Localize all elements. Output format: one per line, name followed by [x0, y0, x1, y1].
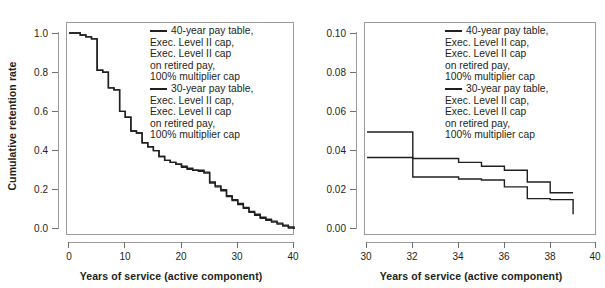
y-tick-label: 0.04 — [308, 145, 346, 156]
legend-entry-label: 40-year pay table, Exec. Level II cap, E… — [150, 25, 253, 82]
y-tick-mark — [350, 189, 356, 190]
y-tick-label: 0.10 — [308, 28, 346, 39]
y-tick-label: 0.02 — [308, 184, 346, 195]
x-tick-mark — [293, 242, 294, 248]
x-tick-mark — [458, 242, 459, 248]
y-tick-mark — [350, 33, 356, 34]
x-tick-label: 36 — [489, 251, 519, 262]
legend-entry-label: 40-year pay table, Exec. Level II cap, E… — [445, 25, 548, 82]
x-tick-mark — [124, 242, 125, 248]
y-tick-mark — [350, 228, 356, 229]
x-tick-label: 0 — [54, 251, 84, 262]
y-tick-mark — [350, 150, 356, 151]
legend-entry: 30-year pay table, Exec. Level II cap, E… — [150, 83, 296, 141]
x-axis-label-left: Years of service (active component) — [46, 270, 296, 282]
y-tick-label: 0.00 — [308, 223, 346, 234]
x-axis-spine-right — [366, 242, 596, 243]
y-tick-mark — [52, 72, 58, 73]
y-tick-label: 0.0 — [18, 223, 48, 234]
x-tick-label: 30 — [351, 251, 381, 262]
legend-left: 40-year pay table, Exec. Level II cap, E… — [150, 25, 296, 141]
y-tick-mark — [52, 228, 58, 229]
x-tick-label: 32 — [397, 251, 427, 262]
legend-entry: 30-year pay table, Exec. Level II cap, E… — [445, 83, 595, 141]
series-group-right — [367, 132, 573, 214]
y-axis-spine-right — [356, 32, 357, 229]
chart-panel-right: 0.00 0.02 0.04 0.06 0.08 0.10 30 32 34 3… — [303, 8, 605, 288]
series-path — [367, 132, 573, 214]
y-tick-mark — [52, 111, 58, 112]
legend-entry-label: 30-year pay table, Exec. Level II cap, E… — [445, 83, 548, 140]
chart-panel-left: Cumulative retention rate 0.0 0.2 0.4 0.… — [0, 8, 302, 288]
x-tick-mark — [550, 242, 551, 248]
x-tick-mark — [68, 242, 69, 248]
x-tick-mark — [412, 242, 413, 248]
legend-line-swatch — [445, 30, 462, 32]
legend-line-swatch — [445, 88, 462, 90]
x-tick-mark — [595, 242, 596, 248]
x-tick-label: 38 — [535, 251, 565, 262]
y-tick-mark — [350, 72, 356, 73]
y-tick-label: 0.4 — [18, 145, 48, 156]
figure-root: Cumulative retention rate 0.0 0.2 0.4 0.… — [0, 0, 605, 288]
y-tick-label: 1.0 — [18, 28, 48, 39]
y-tick-label: 0.06 — [308, 106, 346, 117]
y-tick-mark — [52, 189, 58, 190]
x-tick-label: 30 — [222, 251, 252, 262]
y-tick-mark — [52, 150, 58, 151]
y-tick-label: 0.08 — [308, 67, 346, 78]
legend-line-swatch — [150, 88, 167, 90]
legend-line-swatch — [150, 30, 167, 32]
x-tick-label: 40 — [580, 251, 605, 262]
y-tick-mark — [350, 111, 356, 112]
series-path — [367, 157, 573, 192]
x-tick-mark — [237, 242, 238, 248]
y-tick-label: 0.8 — [18, 67, 48, 78]
y-tick-mark — [52, 33, 58, 34]
x-tick-label: 20 — [166, 251, 196, 262]
x-tick-mark — [181, 242, 182, 248]
y-tick-label: 0.6 — [18, 106, 48, 117]
legend-entry-label: 30-year pay table, Exec. Level II cap, E… — [150, 83, 253, 140]
x-tick-mark — [504, 242, 505, 248]
x-axis-label-right: Years of service (active component) — [346, 270, 596, 282]
y-tick-label: 0.2 — [18, 184, 48, 195]
clipped-caption-strip — [0, 0, 605, 7]
y-axis-spine-left — [58, 32, 59, 229]
legend-entry: 40-year pay table, Exec. Level II cap, E… — [445, 25, 595, 83]
y-axis-label-left: Cumulative retention rate — [6, 56, 18, 196]
legend-right: 40-year pay table, Exec. Level II cap, E… — [445, 25, 595, 141]
legend-entry: 40-year pay table, Exec. Level II cap, E… — [150, 25, 296, 83]
x-tick-label: 10 — [110, 251, 140, 262]
x-tick-mark — [366, 242, 367, 248]
x-tick-label: 34 — [443, 251, 473, 262]
